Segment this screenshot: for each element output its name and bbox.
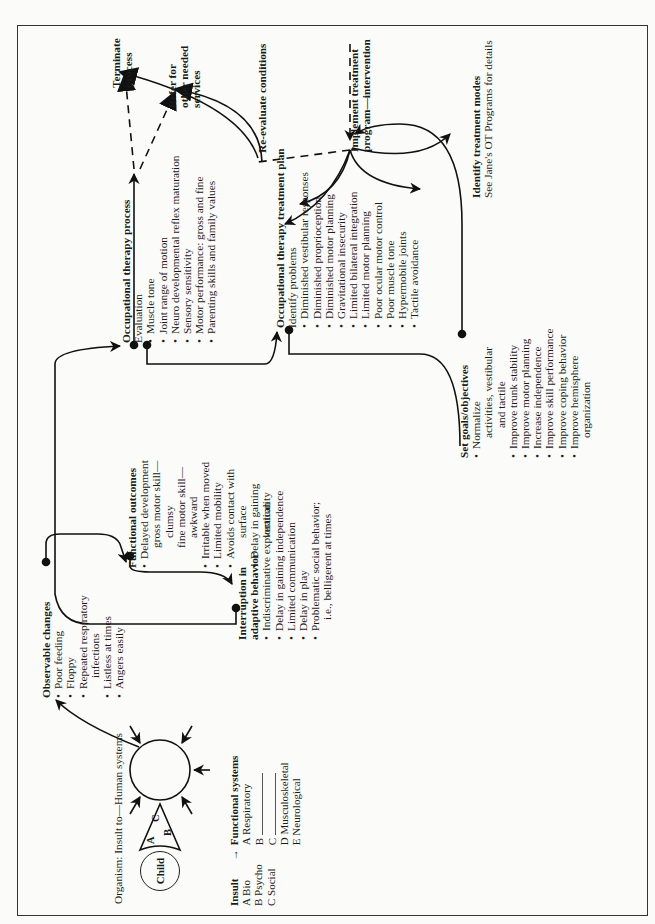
list-item: Limited bilateral integration [347,148,359,328]
observable-changes-title: Observable changes [40,595,52,698]
legend-system-item: A Respiratory [240,752,252,846]
child-circle: Child [140,851,180,891]
list-item: Sensory sensitivity [181,156,193,343]
list-item: Limited motor planning [359,148,371,328]
list-item: Limited communication [285,491,297,640]
implement-line-2: program—intervention [360,39,372,152]
list-item: Gravitational insecurity [335,148,347,328]
list-item: Improve coping behavior [556,329,568,458]
list-item: Angers easily [113,595,125,698]
list-item: Parenting skills and family values [205,156,217,343]
ot-treatment-plan-subtitle: Identify problems [286,148,298,328]
treatment-modes-detail: See Jane's OT Programs for details [482,40,494,198]
list-item-cont: fine motor skill— [175,460,187,568]
legend-insult-header: Insult [228,860,240,906]
terminate-line-1: Terminate [110,38,122,88]
cone-label-c: C [150,814,161,822]
list-item: Delay in gaining independence [273,491,285,640]
interruption-title-2: adaptive behavior [248,491,260,640]
list-item: Diminished motor planning [323,148,335,328]
legend-insult-item: C Social [265,860,278,906]
legend-system-item: E Neurological [290,752,302,846]
list-item: Muscle tone [144,156,156,343]
list-item: Increase independence [531,329,543,458]
list-item-cont: infections [89,595,101,698]
list-item: Poor muscle tone [384,148,396,328]
treatment-modes-title: Identify treatment modes [470,40,482,198]
list-item: Improve hemisphere [568,329,580,458]
list-item: Irritable when moved [199,460,211,568]
cone-label-a: A [145,836,156,844]
list-item: Listless at times [101,595,113,698]
implement-block: Implement treatment program—intervention [348,39,372,152]
list-item: Improve motor planning [519,329,531,458]
implement-line-1: Implement treatment [348,39,360,152]
legend-system-item: C [265,752,278,846]
list-item: Diminished vestibular responses [298,148,310,328]
ot-treatment-plan-block: Occupational therapy treatment plan Iden… [274,148,420,328]
list-item-cont: and tactile [495,329,507,458]
legend-insult-item: A Bio [240,860,252,906]
list-item-cont: awkward [187,460,199,568]
cone-label-b: B [162,829,173,836]
legend: Insult → Functional systems A Bio A Resp… [228,752,302,906]
list-item-cont: activities, vestibular [482,329,494,458]
set-goals-title: Set goals/objectives [458,329,470,458]
list-item: Delay in play [297,491,309,640]
ot-process-subtitle: Evaluation [132,156,144,343]
list-item: Poor feeding [52,595,64,698]
refer-line-2: other needed [178,46,190,108]
legend-system-item: D Musculoskeletal [278,752,290,846]
list-item-cont: gross motor skill— [150,460,162,568]
list-item-cont: i.e., belligerent at times [321,491,333,640]
connector-lines [0,0,655,924]
list-item: Diminished proprioception [311,148,323,328]
list-item: Normalize [470,329,482,458]
list-item-cont: organization [580,329,592,458]
ot-process-title: Occupational therapy process [120,156,132,343]
list-item: Joint range of motion [157,156,169,343]
list-item: Motor performance: gross and fine [193,156,205,343]
list-item: Delayed development [138,460,150,568]
legend-arrow: → [228,845,240,860]
organism-caption: Organism: Insult to—Human systems [112,733,125,904]
treatment-modes-block: Identify treatment modes See Jane's OT P… [470,40,494,198]
list-item: Improve trunk stability [507,329,519,458]
ot-process-block: Occupational therapy process Evaluation … [120,156,218,343]
terminate-line-2: process [122,38,134,88]
list-item: Poor ocular motor control [372,148,384,328]
list-item: Repeated respiratory [77,595,89,698]
list-item: Hypermobile joints [396,148,408,328]
reevaluate-label: Re-evaluate conditions [256,43,269,153]
refer-block: Refer for other needed services [166,46,203,108]
legend-system-item: B [252,752,265,846]
list-item: Limited mobility [211,460,223,568]
refer-line-1: Refer for [166,46,178,108]
interruption-title-1: Interruption in [236,491,248,640]
list-item: Indiscriminative exploration [260,491,272,640]
legend-systems-header: Functional systems [228,752,240,846]
set-goals-block: Set goals/objectives Normalize activitie… [458,329,592,458]
list-item: Avoids contact with [224,460,236,568]
observable-changes-block: Observable changes Poor feeding Floppy R… [40,595,125,698]
list-item: Problematic social behavior; [309,491,321,640]
list-item-cont: clumsy [163,460,175,568]
list-item: Improve skill performance [543,329,555,458]
terminate-block: Terminate process [110,38,134,88]
list-item: Neuro developmental reflex maturation [169,156,181,343]
diagram-canvas: Organism: Insult to—Human systems Child … [0,0,655,924]
ot-treatment-plan-title: Occupational therapy treatment plan [274,148,286,328]
organism-circle [130,740,190,800]
legend-insult-item: B Psycho [252,860,265,906]
list-item: Floppy [64,595,76,698]
functional-outcomes-title: Functional outcomes [126,460,138,568]
list-item: Tactile avoidance [408,148,420,328]
refer-line-3: services [190,46,202,108]
interruption-block: Interruption in adaptive behavior Indisc… [236,491,334,640]
